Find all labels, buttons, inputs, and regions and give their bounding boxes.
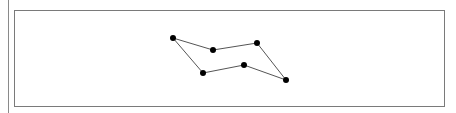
polygon-outline [173,38,286,80]
vertex-dot [210,47,216,53]
polygon-diagram [0,0,456,113]
vertex-dot [254,40,260,46]
vertex-dot [283,77,289,83]
vertex-dot [170,35,176,41]
vertex-dot [200,70,206,76]
vertex-dot [241,62,247,68]
